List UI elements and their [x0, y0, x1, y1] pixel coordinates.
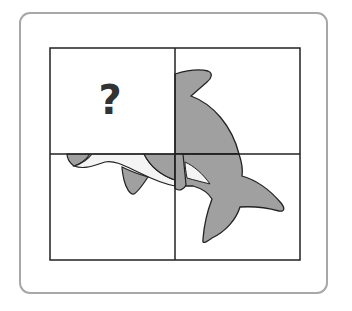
missing-piece-question-mark[interactable]: ?: [95, 76, 125, 124]
dolphin-fin-shape: [175, 70, 239, 154]
dolphin-puzzle-grid: [0, 0, 352, 311]
piece-bottom-left[interactable]: [67, 154, 186, 194]
piece-top-right[interactable]: [175, 70, 239, 154]
piece-bottom-right[interactable]: [175, 154, 284, 242]
